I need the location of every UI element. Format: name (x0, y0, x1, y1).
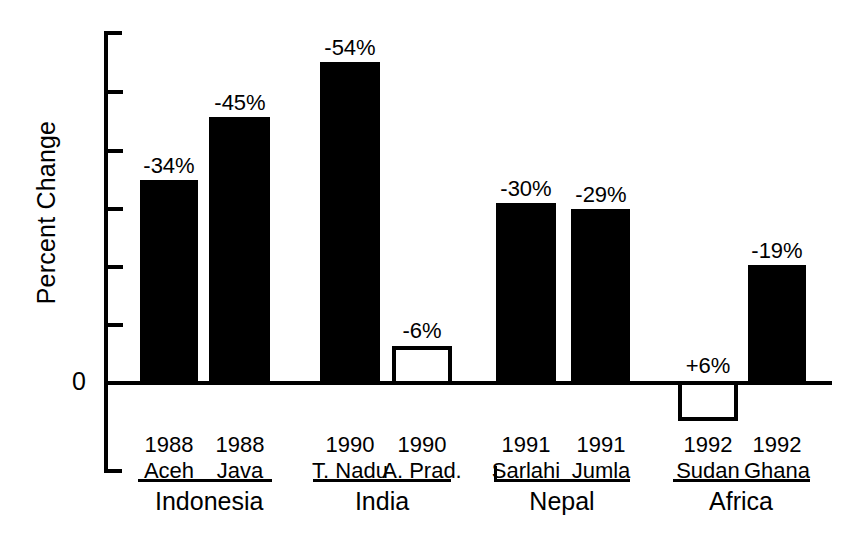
bar[interactable] (209, 117, 270, 381)
group-name: India (332, 488, 432, 516)
group-rule (138, 479, 272, 482)
group-name: Africa (691, 488, 791, 516)
bar[interactable] (748, 265, 806, 381)
group-name: Nepal (512, 488, 612, 516)
group-rule (494, 479, 630, 482)
bar[interactable] (320, 62, 380, 381)
group-rule (313, 479, 451, 482)
category-label: 1988 Java (190, 432, 290, 484)
category-label: 1992 Ghana (727, 432, 827, 484)
bar[interactable] (392, 346, 452, 385)
bar-value-label: -6% (372, 320, 472, 342)
bar[interactable] (678, 381, 738, 421)
bar[interactable] (140, 180, 198, 381)
category-label-year: 1992 (727, 432, 827, 458)
bar-value-label: -19% (727, 240, 827, 262)
category-label: 1991 Jumla (551, 432, 651, 484)
bar-value-label: -54% (300, 37, 400, 59)
bar[interactable] (571, 209, 630, 381)
bar-value-label: +6% (658, 355, 758, 377)
group-name: Indonesia (155, 488, 255, 516)
category-label-year: 1988 (190, 432, 290, 458)
category-label: 1990 A. Prad. (372, 432, 472, 484)
category-label-year: 1990 (372, 432, 472, 458)
bar[interactable] (496, 203, 556, 381)
chart-figure: Percent Change 0 -34% -45% -54% -6% -30%… (0, 0, 868, 537)
bar-value-label: -29% (551, 184, 651, 206)
group-rule (673, 479, 810, 482)
category-label-year: 1991 (551, 432, 651, 458)
bar-value-label: -45% (190, 92, 290, 114)
bar-value-label: -34% (119, 155, 219, 177)
